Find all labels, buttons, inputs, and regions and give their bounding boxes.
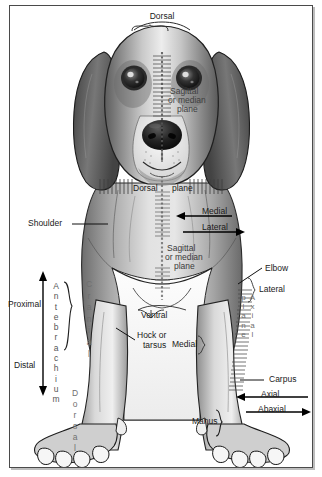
label-cranial: Cranial — [84, 279, 94, 353]
label-carpus: Carpus — [269, 375, 296, 385]
label-lateral-right: Lateral — [259, 285, 285, 295]
label-sagittal-body-line3: plane — [174, 262, 195, 272]
label-hock-line2: tarsus — [143, 341, 166, 351]
label-dorsal-plane-word2: plane — [172, 184, 193, 194]
label-manus: Manus — [192, 417, 218, 427]
label-proximal: Proximal — [8, 300, 41, 310]
label-sagittal-head-line3: plane — [177, 105, 198, 115]
label-ventral: Ventral — [141, 311, 167, 321]
label-lateral-arrow: Lateral — [202, 223, 228, 233]
label-axial: Axial — [261, 390, 279, 400]
label-elbow: Elbow — [265, 264, 288, 274]
figure-canvas: Dorsal Sagittal or median plane Dorsal p… — [0, 0, 322, 477]
label-medial-arrow: Medial — [202, 207, 227, 217]
label-medial-center: Medial — [172, 340, 197, 350]
label-abaxial: Abaxial — [258, 405, 286, 415]
label-dorsal-plane-word1: Dorsal — [133, 184, 158, 194]
label-shoulder: Shoulder — [28, 219, 62, 229]
label-axial-plane-vertical: Axial plane — [239, 293, 257, 355]
label-distal: Distal — [14, 361, 35, 371]
label-antebrachium: Antebrachium — [51, 281, 61, 353]
label-dorsal-paw: Dorsal — [70, 388, 80, 432]
label-dorsal-top: Dorsal — [138, 12, 186, 22]
